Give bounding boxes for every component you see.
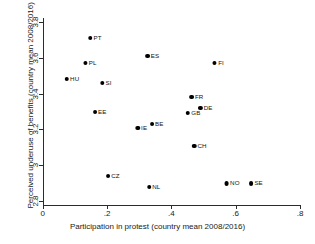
data-point-label: HU xyxy=(70,76,79,82)
data-point-es: ES xyxy=(145,53,159,59)
data-point-pt: PT xyxy=(88,35,101,41)
plot-area xyxy=(43,18,300,205)
data-point-nl: NL xyxy=(147,184,161,190)
data-point-si: SI xyxy=(100,80,111,86)
data-point-label: PT xyxy=(93,35,101,41)
data-point-label: DE xyxy=(204,105,213,111)
data-point-fi: FI xyxy=(213,60,224,66)
data-point-be: BE xyxy=(150,121,164,127)
data-point-marker xyxy=(190,95,194,99)
scatter-plot-figure: 0.2.4.6.8 2.833.23.43.63.8 Participation… xyxy=(0,0,315,244)
data-point-marker xyxy=(93,109,97,113)
data-point-marker xyxy=(100,81,104,85)
x-tick xyxy=(236,205,237,209)
data-point-label: NO xyxy=(230,180,239,186)
x-tick xyxy=(171,205,172,209)
data-point-marker xyxy=(225,181,229,185)
data-point-label: EE xyxy=(98,108,106,114)
x-tick-label: .8 xyxy=(297,209,304,218)
data-point-label: CH xyxy=(197,143,206,149)
data-point-label: CZ xyxy=(111,173,119,179)
x-axis-title: Participation in protest (country mean 2… xyxy=(0,222,315,231)
data-point-marker xyxy=(249,181,253,185)
data-point-no: NO xyxy=(225,180,240,186)
data-point-label: PL xyxy=(89,60,97,66)
data-point-pl: PL xyxy=(83,60,96,66)
data-point-hu: HU xyxy=(65,76,80,82)
data-point-label: GB xyxy=(191,110,200,116)
x-tick xyxy=(300,205,301,209)
data-point-label: SE xyxy=(254,180,262,186)
data-point-marker xyxy=(106,174,110,178)
data-point-ee: EE xyxy=(93,108,107,114)
x-tick xyxy=(107,205,108,209)
data-point-ch: CH xyxy=(192,143,207,149)
data-point-marker xyxy=(83,61,87,65)
data-point-marker xyxy=(147,185,151,189)
data-point-label: FR xyxy=(195,94,203,100)
data-point-marker xyxy=(145,54,149,58)
data-point-label: NL xyxy=(152,184,160,190)
data-point-marker xyxy=(136,126,140,130)
data-point-gb: GB xyxy=(186,110,201,116)
data-point-ie: IE xyxy=(136,125,147,131)
x-tick-label: .2 xyxy=(104,209,111,218)
data-point-marker xyxy=(192,144,196,148)
data-point-fr: FR xyxy=(190,94,204,100)
data-point-label: FI xyxy=(218,60,224,66)
data-point-se: SE xyxy=(249,180,263,186)
x-tick-label: .4 xyxy=(168,209,175,218)
data-point-marker xyxy=(213,61,217,65)
y-axis-title: Perceived underuse of benefits (country … xyxy=(26,9,35,209)
data-point-label: IE xyxy=(141,125,147,131)
data-point-marker xyxy=(186,111,190,115)
data-point-cz: CZ xyxy=(106,173,120,179)
x-tick xyxy=(43,205,44,209)
data-point-label: BE xyxy=(155,121,163,127)
data-point-marker xyxy=(150,122,154,126)
x-tick-label: 0 xyxy=(40,209,44,218)
data-point-marker xyxy=(88,36,92,40)
data-point-label: ES xyxy=(151,53,159,59)
data-point-marker xyxy=(65,77,69,81)
data-point-label: SI xyxy=(105,80,111,86)
x-tick-label: .6 xyxy=(232,209,239,218)
